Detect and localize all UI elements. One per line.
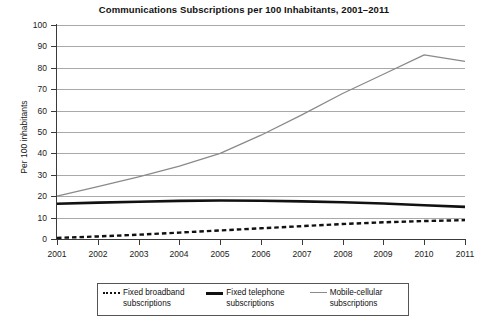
thick-solid-line-icon	[206, 292, 223, 295]
y-tick-label: 70	[14, 85, 47, 94]
dotted-line-icon	[103, 292, 120, 294]
y-tick-label: 40	[14, 149, 47, 158]
x-tick-mark	[139, 240, 140, 245]
x-tick-label: 2010	[401, 249, 447, 259]
y-tick-label: 30	[14, 171, 47, 180]
x-tick-mark	[220, 240, 221, 245]
x-tick-label: 2004	[156, 249, 202, 259]
x-tick-mark	[383, 240, 384, 245]
y-tick-label: 80	[14, 64, 47, 73]
legend-entry-label: Mobile-cellular subscriptions	[330, 287, 408, 309]
legend-entry[interactable]: Fixed telephone subscriptions	[201, 287, 304, 309]
x-tick-label: 2002	[75, 249, 121, 259]
x-axis-line	[56, 239, 466, 240]
chart-legend: Fixed broadband subscriptionsFixed telep…	[97, 283, 409, 316]
x-tick-label: 2009	[360, 249, 406, 259]
y-tick-label: 60	[14, 107, 47, 116]
y-tick-label: 20	[14, 192, 47, 201]
chart-container: Communications Subscriptions per 100 Inh…	[0, 0, 488, 322]
x-tick-mark	[302, 240, 303, 245]
x-tick-label: 2001	[34, 249, 80, 259]
legend-entry-label: Fixed broadband subscriptions	[123, 287, 201, 309]
thin-solid-line-icon	[310, 292, 327, 293]
x-tick-mark	[261, 240, 262, 245]
y-tick-label: 0	[14, 235, 47, 244]
series-line	[57, 220, 465, 238]
series-line	[57, 200, 465, 206]
x-tick-mark	[343, 240, 344, 245]
legend-entry[interactable]: Fixed broadband subscriptions	[98, 287, 201, 309]
x-tick-mark	[424, 240, 425, 245]
y-tick-label: 90	[14, 42, 47, 51]
y-tick-label: 100	[14, 21, 47, 30]
series-line	[57, 55, 465, 196]
legend-entry[interactable]: Mobile-cellular subscriptions	[305, 287, 408, 309]
x-tick-mark	[57, 240, 58, 245]
y-tick-label: 10	[14, 214, 47, 223]
chart-title: Communications Subscriptions per 100 Inh…	[0, 4, 488, 15]
x-tick-mark	[465, 240, 466, 245]
x-tick-label: 2011	[442, 249, 488, 259]
x-tick-label: 2006	[238, 249, 284, 259]
x-tick-mark	[179, 240, 180, 245]
x-tick-mark	[98, 240, 99, 245]
legend-entry-label: Fixed telephone subscriptions	[226, 287, 304, 309]
y-tick-label: 50	[14, 128, 47, 137]
x-tick-label: 2005	[197, 249, 243, 259]
series-layer	[57, 25, 465, 239]
x-tick-label: 2007	[279, 249, 325, 259]
